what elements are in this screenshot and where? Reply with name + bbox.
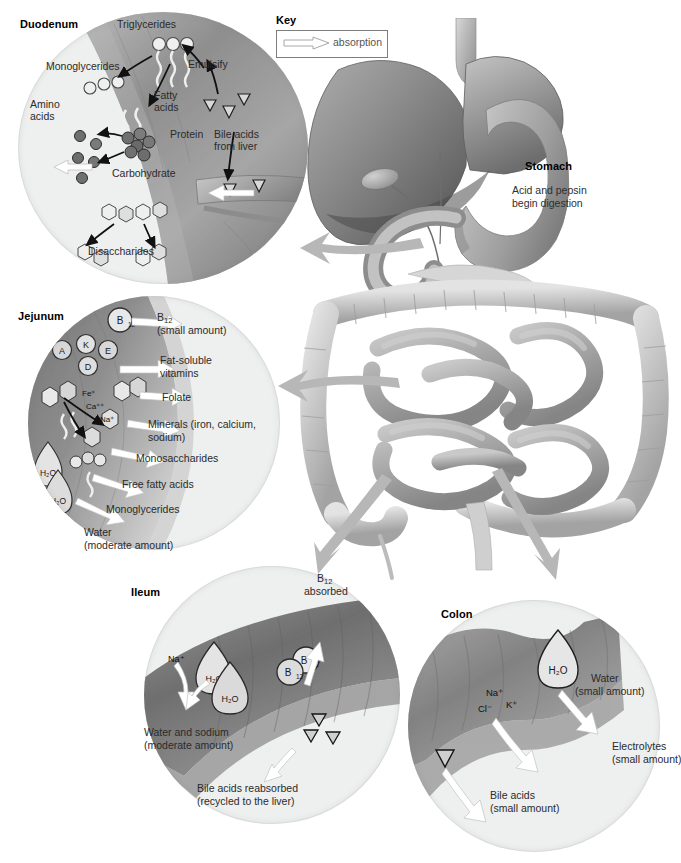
svg-text:H₂O: H₂O	[50, 496, 66, 506]
ileum-absorbed-b12-line2: absorbed	[304, 586, 348, 598]
colon-absorbed-bile-acids-line2: (small amount)	[490, 803, 559, 815]
small-intestine-coils	[371, 331, 600, 507]
duodenum-label-disaccharides: Disaccharides	[88, 246, 154, 258]
ileum-title: Ileum	[131, 586, 160, 598]
jejunum-absorbed-minerals-line2: sodium)	[148, 432, 185, 444]
duodenum-label-bile-acids-from-liver: Bile acids from liver	[214, 129, 259, 152]
jejunum-absorbed-water-line1: Water	[84, 527, 112, 539]
svg-text:12: 12	[296, 673, 304, 680]
svg-text:Ca⁺⁺: Ca⁺⁺	[86, 402, 104, 411]
svg-text:A: A	[59, 346, 65, 356]
transverse-colon	[326, 293, 646, 318]
svg-text:B: B	[117, 315, 124, 326]
svg-text:E: E	[105, 346, 111, 356]
duodenum-callout	[18, 12, 308, 284]
jejunum-absorbed-water-line2: (moderate amount)	[84, 540, 173, 552]
jejunum-absorbed-minerals-line1: Minerals (iron, calcium,	[148, 419, 256, 431]
ileum-absorbed-bile-acids-line2: (recycled to the liver)	[197, 796, 294, 808]
svg-text:Cl⁻: Cl⁻	[478, 703, 492, 714]
key-legend-label: absorption	[333, 36, 382, 48]
duodenum-label-emulsify: Emulsify	[188, 59, 228, 71]
colon-absorbed-water-line2: (small amount)	[575, 686, 644, 698]
ileum-absorbed-bile-acids-line1: Bile acids reabsorbed	[197, 783, 298, 795]
jejunum-absorbed-folate: Folate	[162, 392, 191, 404]
svg-text:B: B	[285, 667, 292, 678]
duodenum-label-amino-acids: Amino acids	[30, 99, 60, 122]
duodenum-label-monoglycerides: Monoglycerides	[46, 61, 120, 73]
svg-text:K⁺: K⁺	[506, 699, 517, 710]
svg-text:Na⁺: Na⁺	[486, 687, 503, 698]
duodenum-label-fatty-acids: Fatty acids	[154, 90, 179, 113]
stomach-title: Stomach	[525, 160, 572, 172]
duodenum-title: Duodenum	[20, 18, 78, 30]
svg-text:H₂O: H₂O	[222, 694, 239, 704]
jejunum-absorbed-monoglycerides: Monoglycerides	[106, 504, 180, 516]
jejunum-absorbed-fat-soluble-vitamins-line2: vitamins	[160, 368, 199, 380]
jejunum-absorbed-monosaccharides: Monosaccharides	[136, 453, 218, 465]
key-title: Key	[276, 14, 296, 26]
colon-absorbed-bile-acids-line1: Bile acids	[490, 790, 535, 802]
colon-absorbed-electrolytes-line2: (small amount)	[612, 754, 681, 766]
svg-text:D: D	[85, 362, 92, 372]
stomach-description-line1: Acid and pepsin	[512, 185, 587, 197]
jejunum-absorbed-fat-soluble-vitamins-line1: Fat-soluble	[160, 355, 212, 367]
duodenum-label-protein: Protein	[170, 129, 203, 141]
colon-title: Colon	[441, 608, 473, 620]
svg-text:H₂O: H₂O	[549, 665, 568, 676]
stomach-description-line2: begin digestion	[512, 198, 583, 210]
jejunum-absorbed-b12-line2: (small amount)	[157, 325, 226, 337]
absorption-arrow-icon	[283, 36, 331, 54]
jejunum-title: Jejunum	[18, 310, 64, 322]
colon-absorbed-water-line1: Water	[591, 673, 619, 685]
duodenum-label-carbohydrate: Carbohydrate	[112, 168, 176, 180]
svg-text:K: K	[83, 340, 89, 350]
cecum	[336, 514, 396, 534]
gi-tract-anatomy	[280, 18, 674, 588]
ileum-sodium-label: Na⁺	[168, 654, 185, 664]
svg-text:Fe⁺: Fe⁺	[82, 389, 95, 398]
ileum-absorbed-water-sodium-line2: (moderate amount)	[144, 740, 233, 752]
duodenum-label-triglycerides: Triglycerides	[117, 19, 176, 31]
jejunum-absorbed-free-fatty-acids: Free fatty acids	[122, 479, 194, 491]
colon-absorbed-electrolytes-line1: Electrolytes	[612, 741, 666, 753]
ileum-absorbed-water-sodium-line1: Water and sodium	[144, 727, 229, 739]
amino-acid-molecules	[73, 131, 102, 184]
svg-text:B: B	[301, 655, 308, 666]
svg-text:Na⁺: Na⁺	[100, 415, 114, 424]
